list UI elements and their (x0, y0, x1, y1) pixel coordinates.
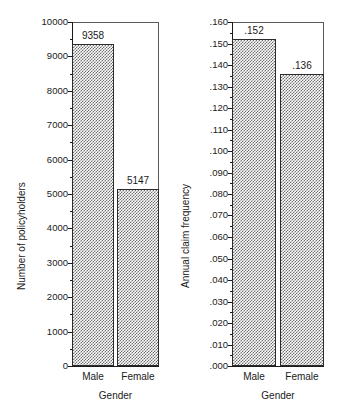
y-tick-label: .000 (194, 361, 228, 371)
y-tick-label: .090 (194, 168, 228, 178)
y-tick-label: .120 (194, 103, 228, 113)
y-tick-label: 10000 (30, 17, 68, 27)
y-tick-label: .130 (194, 82, 228, 92)
y-tick-mark (228, 22, 232, 23)
y-tick-label: 8000 (30, 86, 68, 96)
y-tick-label: .030 (194, 297, 228, 307)
x-axis-line-right (232, 366, 324, 367)
bar-female-claim-frequency (280, 74, 324, 366)
y-axis-title-right: Annual claim frequency (180, 184, 191, 288)
bar-value-male-claim-frequency: .152 (232, 25, 276, 36)
y-tick-label: 3000 (30, 258, 68, 268)
y-tick-label: .100 (194, 146, 228, 156)
y-tick-mark (68, 366, 72, 367)
x-axis-line-left (72, 366, 159, 367)
y-tick-label: .010 (194, 340, 228, 350)
bar-value-female-claim-frequency: .136 (280, 60, 324, 71)
xtick-label-male-left: Male (72, 371, 114, 382)
y-tick-label: 2000 (30, 292, 68, 302)
y-tick-label: 6000 (30, 155, 68, 165)
y-tick-label: 9000 (30, 51, 68, 61)
xtick-label-female-left: Female (117, 371, 159, 382)
y-tick-label: 4000 (30, 223, 68, 233)
y-tick-label: .050 (194, 254, 228, 264)
bar-male-policyholders (72, 44, 114, 366)
y-tick-label: 0 (30, 361, 68, 371)
bar-value-male-policyholders: 9358 (72, 30, 114, 41)
x-axis-title-left: Gender (72, 390, 159, 401)
y-tick-label: .140 (194, 60, 228, 70)
y-tick-label: .020 (194, 318, 228, 328)
chart-panel-policyholders: 0100020003000400050006000700080009000100… (0, 0, 172, 418)
y-tick-label: 1000 (30, 327, 68, 337)
y-tick-label: 5000 (30, 189, 68, 199)
y-tick-label: .070 (194, 210, 228, 220)
y-axis-title-left: Number of policyholders (16, 182, 27, 290)
y-tick-label: .080 (194, 189, 228, 199)
xtick-label-female-right: Female (280, 371, 324, 382)
y-tick-label: .110 (194, 125, 228, 135)
x-axis-title-right: Gender (232, 390, 324, 401)
y-tick-mark (68, 22, 72, 23)
y-tick-label: 7000 (30, 120, 68, 130)
bar-female-policyholders (117, 189, 159, 366)
bar-male-claim-frequency (232, 39, 276, 366)
y-tick-label: .060 (194, 232, 228, 242)
y-tick-label: .150 (194, 39, 228, 49)
figure-two-bar-charts: 0100020003000400050006000700080009000100… (0, 0, 344, 418)
y-tick-label: .040 (194, 275, 228, 285)
xtick-label-male-right: Male (232, 371, 276, 382)
bar-value-female-policyholders: 5147 (117, 175, 159, 186)
y-tick-mark (228, 366, 232, 367)
chart-panel-claim-frequency: .000.010.020.030.040.050.060.070.080.090… (172, 0, 344, 418)
y-tick-label: .160 (194, 17, 228, 27)
